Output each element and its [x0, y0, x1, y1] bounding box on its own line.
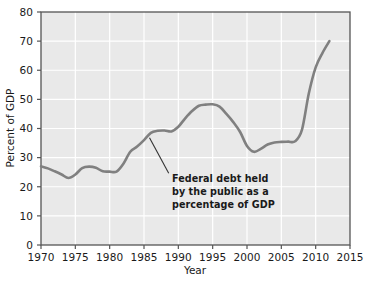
y-tick-label: 0: [26, 239, 33, 251]
y-axis-title: Percent of GDP: [4, 89, 16, 168]
y-tick-label: 30: [19, 151, 33, 163]
y-tick-label: 70: [19, 35, 33, 47]
annotation-line-3: percentage of GDP: [172, 199, 275, 210]
x-axis-title: Year: [183, 264, 207, 276]
x-tick-label: 2015: [336, 251, 363, 263]
x-tick-label: 2000: [233, 251, 260, 263]
x-tick-label: 2010: [302, 251, 329, 263]
y-tick-label: 10: [19, 210, 33, 222]
x-tick-label: 1995: [199, 251, 226, 263]
y-tick-label: 40: [19, 122, 33, 134]
federal-debt-annotation: Federal debt held by the public as a per…: [172, 173, 275, 210]
x-tick-label: 1990: [165, 251, 192, 263]
x-tick-label: 1985: [130, 251, 157, 263]
annotation-line-1: Federal debt held: [172, 173, 268, 184]
annotation-line-2: by the public as a: [172, 186, 269, 197]
y-tick-label: 50: [19, 93, 33, 105]
y-tick-label: 60: [19, 64, 33, 76]
x-tick-label: 1975: [62, 251, 89, 263]
x-tick-label: 1970: [27, 251, 54, 263]
line-chart-svg: 01020304050607080 1970197519801985199019…: [0, 0, 371, 285]
x-tick-label: 2005: [268, 251, 295, 263]
y-tick-label: 80: [19, 6, 33, 18]
x-tick-label: 1980: [96, 251, 123, 263]
y-tick-label: 20: [19, 181, 33, 193]
chart-figure: 01020304050607080 1970197519801985199019…: [0, 0, 371, 285]
